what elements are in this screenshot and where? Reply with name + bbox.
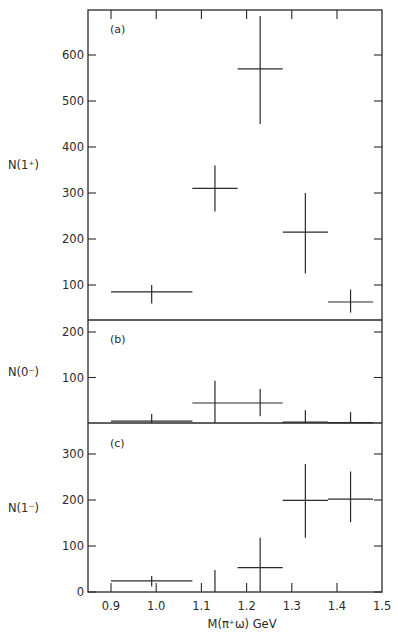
chart-svg: (a)N(1⁺)100200300400500600 (b)N(0⁻)10020… xyxy=(0,0,398,633)
y-tick-label: 200 xyxy=(62,325,84,339)
y-tick-label: 500 xyxy=(62,94,84,108)
data-point xyxy=(238,16,283,124)
data-point xyxy=(283,410,328,423)
y-tick-label: 400 xyxy=(62,140,84,154)
y-tick-label: 100 xyxy=(62,539,84,553)
y-axis-label: N(1⁻) xyxy=(8,501,39,515)
y-axis-label: N(1⁺) xyxy=(8,158,39,172)
data-point xyxy=(328,290,373,313)
data-point xyxy=(238,538,283,592)
x-tick-label: 1.0 xyxy=(147,599,165,613)
x-tick-label: 0.9 xyxy=(102,599,120,613)
chart-figure: (a)N(1⁺)100200300400500600 (b)N(0⁻)10020… xyxy=(0,0,398,633)
plot-frame xyxy=(88,10,382,592)
x-tick-label: 1.1 xyxy=(192,599,210,613)
frame-border xyxy=(88,10,382,592)
panel-c-n1minus: (c)N(1⁻)0100200300 xyxy=(8,437,382,599)
y-tick-label: 600 xyxy=(62,48,84,62)
data-point xyxy=(238,389,283,416)
data-point xyxy=(192,381,237,423)
panel-tag: (a) xyxy=(110,23,125,36)
panel-tag: (c) xyxy=(110,437,125,450)
data-point xyxy=(328,471,373,522)
data-point xyxy=(111,285,192,303)
panel-a-n1plus: (a)N(1⁺)100200300400500600 xyxy=(8,16,382,313)
x-tick-label: 1.3 xyxy=(283,599,301,613)
data-point xyxy=(111,414,192,423)
y-tick-label: 300 xyxy=(62,447,84,461)
data-point xyxy=(111,576,192,587)
y-tick-label: 200 xyxy=(62,232,84,246)
y-tick-label: 300 xyxy=(62,186,84,200)
x-tick-label: 1.2 xyxy=(237,599,255,613)
x-axis-label: M(π⁺ω) GeV xyxy=(207,617,276,631)
y-tick-label: 0 xyxy=(77,585,84,599)
y-tick-label: 100 xyxy=(62,371,84,385)
data-point xyxy=(192,165,237,211)
y-axis-label: N(0⁻) xyxy=(8,365,39,379)
y-tick-label: 200 xyxy=(62,493,84,507)
data-point xyxy=(328,412,373,423)
data-point xyxy=(283,464,328,538)
x-tick-label: 1.5 xyxy=(373,599,391,613)
panel-b-n0minus: (b)N(0⁻)100200 xyxy=(8,325,382,423)
x-tick-label: 1.4 xyxy=(328,599,346,613)
y-tick-label: 100 xyxy=(62,278,84,292)
panel-tag: (b) xyxy=(110,333,126,346)
data-point xyxy=(283,193,328,274)
x-axis: 0.91.01.11.21.31.41.5M(π⁺ω) GeV xyxy=(102,583,391,631)
